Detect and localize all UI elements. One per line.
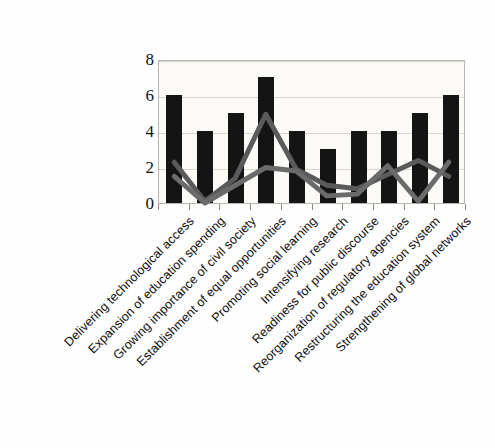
y-tick-label: 8 [126, 51, 154, 68]
y-tick-label: 6 [126, 87, 154, 104]
y-tick-label: 2 [126, 159, 154, 176]
plot-area [158, 60, 465, 204]
chart-figure: 02468 Delivering technological accessExp… [0, 0, 495, 448]
y-axis: 02468 [124, 50, 154, 214]
y-tick-label: 4 [126, 123, 154, 140]
x-axis-labels: Delivering technological accessExpansion… [0, 204, 495, 448]
line-series [174, 162, 449, 203]
line-series-group [159, 61, 464, 203]
